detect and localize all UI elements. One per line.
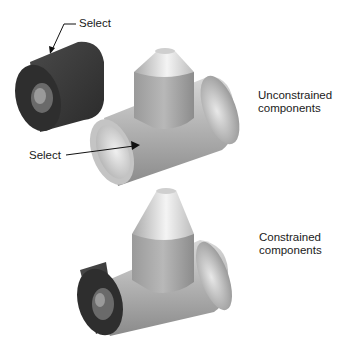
caption-line: Unconstrained [258, 89, 332, 102]
bushing-part [8, 42, 104, 137]
caption-line: Constrained [259, 231, 322, 244]
callout-label-select-bore: Select [29, 149, 61, 162]
caption-line: components [258, 102, 332, 115]
tee-part-top [82, 48, 248, 191]
caption-constrained: Constrained components [259, 231, 322, 257]
caption-line: components [259, 244, 322, 257]
caption-unconstrained: Unconstrained components [258, 89, 332, 115]
callout-label-select-bushing: Select [79, 17, 111, 30]
illustration-canvas [0, 0, 346, 349]
